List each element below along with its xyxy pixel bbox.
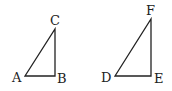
vertex-label-f: F [146,3,155,18]
vertex-label-a: A [11,70,22,85]
triangle-abc: A B C [11,13,67,86]
diagram-canvas: A B C D E F [0,0,172,91]
triangle-def-shape [115,19,151,76]
triangle-abc-shape [25,29,55,76]
triangle-def: D E F [101,3,164,86]
vertex-label-b: B [57,71,67,86]
vertex-label-e: E [154,71,164,86]
vertex-label-c: C [50,13,60,28]
vertex-label-d: D [101,70,111,85]
